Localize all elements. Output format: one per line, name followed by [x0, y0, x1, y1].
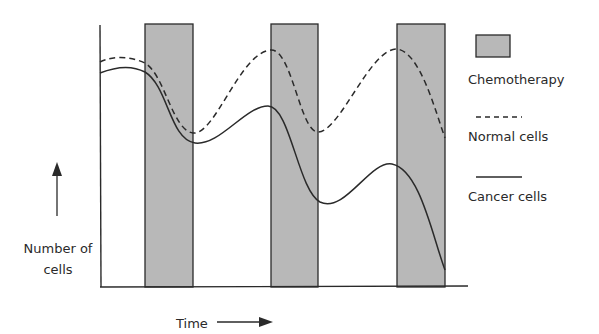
x-axis-arrow-icon [217, 317, 273, 327]
legend-chemo-label: Chemotherapy [468, 72, 565, 87]
legend-chemo-swatch [476, 35, 510, 57]
chemo-bar-2 [271, 24, 318, 287]
chemo-bar-1 [145, 24, 193, 287]
legend: Chemotherapy Normal cells Cancer cells [468, 35, 565, 204]
chart-canvas: Number of cells Time Chemotherapy Normal… [0, 0, 599, 334]
legend-normal-label: Normal cells [468, 129, 549, 144]
y-axis-label-line2: cells [43, 262, 72, 277]
y-axis [100, 25, 101, 287]
x-axis-label: Time [175, 316, 208, 331]
chemotherapy-bars [145, 24, 445, 287]
y-axis-label-line1: Number of [24, 241, 93, 256]
y-axis-arrow-icon [52, 162, 62, 216]
legend-cancer-label: Cancer cells [468, 189, 547, 204]
x-axis [100, 286, 468, 287]
